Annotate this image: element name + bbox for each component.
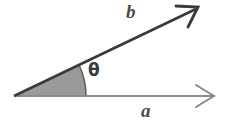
vector-angle-diagram: b a θ (0, 0, 226, 123)
vector-a-label: a (141, 101, 151, 120)
angle-theta-label: θ (88, 62, 100, 79)
diagram-canvas (0, 0, 226, 123)
vector-b-shaft (14, 9, 196, 96)
vector-b-label: b (126, 2, 136, 21)
